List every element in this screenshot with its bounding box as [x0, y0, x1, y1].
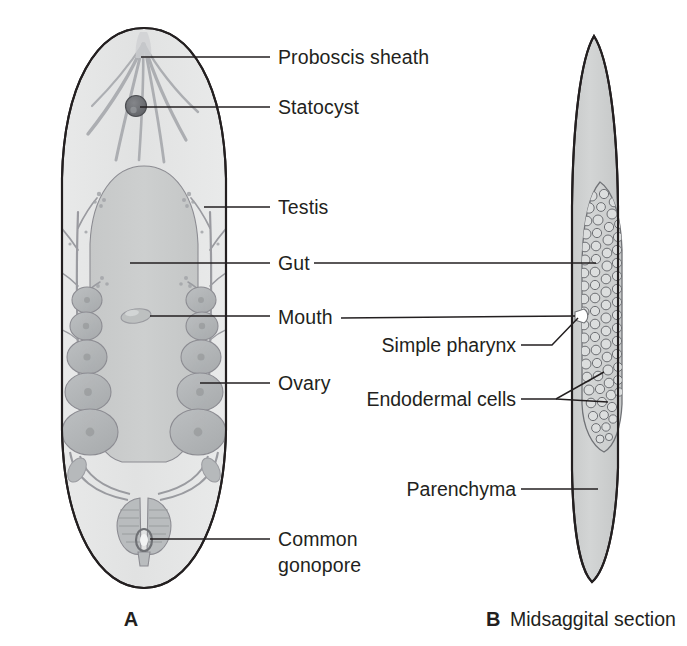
- label-simple-pharynx: Simple pharynx: [382, 334, 517, 356]
- label-gut: Gut: [278, 252, 310, 274]
- anatomy-figure: Proboscis sheath Statocyst Testis Gut Mo…: [0, 0, 687, 646]
- statocyst-lith: [130, 107, 136, 113]
- leader-simple-pharynx: [521, 318, 578, 345]
- label-testis: Testis: [278, 196, 329, 218]
- label-ovary: Ovary: [278, 372, 331, 394]
- figure-root: Proboscis sheath Statocyst Testis Gut Mo…: [0, 0, 687, 646]
- label-common-gonopore-line2: gonopore: [278, 554, 361, 576]
- common-gonopore-lumen: [140, 534, 148, 546]
- panel-b: [572, 36, 623, 582]
- label-endodermal-cells: Endodermal cells: [366, 388, 516, 410]
- label-parenchyma: Parenchyma: [407, 478, 517, 500]
- panel-a-letter: A: [124, 608, 138, 630]
- label-proboscis-sheath: Proboscis sheath: [278, 46, 429, 68]
- label-common-gonopore-line1: Common: [278, 528, 358, 550]
- label-statocyst: Statocyst: [278, 96, 360, 118]
- leader-mouth-right: [341, 316, 575, 318]
- panel-a: [45, 28, 243, 588]
- panel-b-letter: B: [486, 608, 500, 630]
- labels-panel-b: Simple pharynx Endodermal cells Parenchy…: [366, 334, 516, 500]
- statocyst-organ: [126, 96, 147, 117]
- panel-b-caption: Midsaggital section: [510, 608, 676, 630]
- label-mouth: Mouth: [278, 306, 333, 328]
- panel-captions: A B Midsaggital section: [124, 608, 676, 630]
- simple-pharynx-organ: [575, 309, 588, 323]
